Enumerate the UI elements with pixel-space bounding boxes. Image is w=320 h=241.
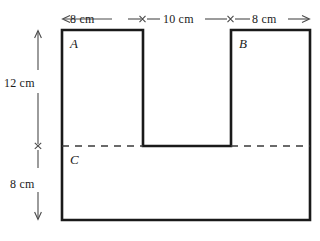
tick-cross-notch-right: [228, 16, 234, 22]
dimension-label-left-lower: 8 cm: [10, 177, 34, 192]
vertex-label-b: B: [239, 36, 247, 52]
vertex-label-a: A: [70, 36, 78, 52]
dimension-label-top-right: 8 cm: [252, 12, 276, 27]
dimension-label-left-upper: 12 cm: [4, 76, 35, 91]
shape-outline: [62, 30, 310, 220]
geometry-figure: [0, 0, 320, 241]
dimension-label-top-middle: 10 cm: [163, 12, 194, 27]
vertex-label-c: C: [70, 152, 79, 168]
dimension-label-top-left: 8 cm: [70, 12, 94, 27]
diagram-canvas: 8 cm 10 cm 8 cm 12 cm 8 cm A B C: [0, 0, 320, 241]
